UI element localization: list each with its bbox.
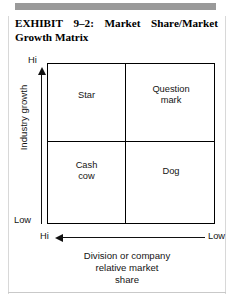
y-axis-tick-low: Low — [14, 215, 31, 226]
y-axis-title: Industry growth — [18, 63, 29, 173]
matrix-horizontal-divider — [48, 141, 214, 142]
quadrant-question-mark: Question mark — [127, 84, 215, 106]
matrix-figure: Hi Low Industry growth Star Question mar… — [0, 0, 234, 306]
exhibit-page: EXHIBIT 9–2: Market Share/Market Growth … — [0, 0, 234, 306]
x-axis-line — [62, 237, 205, 238]
matrix-grid: Star Question mark Cash cow Dog — [47, 63, 215, 224]
y-axis-line — [41, 74, 42, 224]
quadrant-cash-cow: Cash cow — [48, 160, 125, 182]
quadrant-dog: Dog — [127, 166, 215, 177]
quadrant-star: Star — [48, 90, 125, 101]
x-axis-tick-low: Low — [208, 231, 225, 242]
x-axis-title: Division or company relative market shar… — [40, 250, 214, 287]
x-axis-tick-hi: Hi — [40, 231, 49, 242]
y-axis-tick-hi: Hi — [28, 55, 37, 66]
